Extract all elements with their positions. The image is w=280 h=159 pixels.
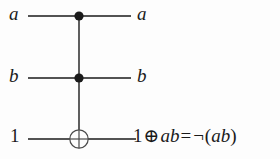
toffoli-gate-diagram: a b 1 a b 1⊕ab=¬(ab) <box>0 0 280 159</box>
expr-not-symbol: ¬ <box>192 125 205 146</box>
expr-product: ab <box>160 125 179 146</box>
control-dot-icon-middle <box>74 73 83 82</box>
expr-operand-one: 1 <box>133 125 143 146</box>
input-label-one: 1 <box>10 126 20 145</box>
output-label-b: b <box>137 66 147 85</box>
expr-equals-symbol: = <box>179 125 192 146</box>
input-label-b: b <box>9 66 19 85</box>
expr-close-paren: ) <box>230 125 236 146</box>
expr-negated-product: ab <box>211 125 230 146</box>
expr-xor-symbol: ⊕ <box>143 125 161 146</box>
output-label-a: a <box>137 4 147 23</box>
input-label-a: a <box>9 4 19 23</box>
output-label-expression: 1⊕ab=¬(ab) <box>133 126 237 145</box>
control-dot-icon-top <box>74 11 83 20</box>
